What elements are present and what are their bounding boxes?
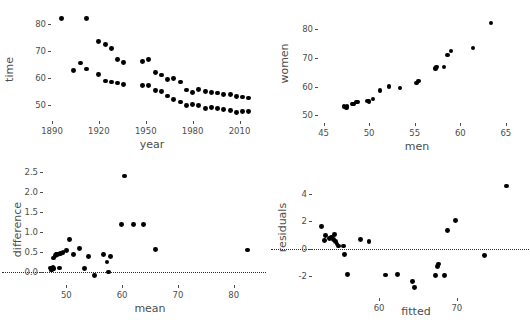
y-tick-label: 0 [279,245,307,254]
data-point [115,57,120,62]
data-point [122,174,127,179]
x-tick-mark [506,123,507,126]
x-tick-label: 50 [349,129,389,138]
data-point [190,102,195,107]
data-point [319,224,324,229]
figure-grid: time 5060708018901920195019802010 year w… [0,0,530,326]
data-point [383,273,388,278]
data-point [77,246,82,251]
data-point [59,16,64,21]
y-tick-label: 70 [285,54,313,63]
data-point [105,260,110,265]
x-tick-label: 1920 [79,127,119,136]
y-tick-mark [40,232,43,233]
plot-area-time-vs-year: 5060708018901920195019802010 [52,8,252,116]
plot-area-difference-vs-mean: 0.00.51.01.52.02.550607080 [44,168,256,280]
y-tick-mark [48,78,51,79]
y-tick-mark [40,272,43,273]
data-point [131,222,136,227]
data-point [453,218,458,223]
x-tick-mark [122,285,123,288]
y-tick-mark [40,192,43,193]
data-point [221,107,226,112]
data-point [246,109,251,114]
y-tick-mark [309,221,312,222]
data-point [96,39,101,44]
data-point [159,89,164,94]
data-point [159,73,164,78]
data-point [71,252,76,257]
data-point [184,88,189,93]
y-tick-mark [309,249,312,250]
data-point [240,109,245,114]
x-tick-label: 45 [304,129,344,138]
y-tick-mark [40,172,43,173]
x-tick-mark [457,298,458,301]
y-tick-label: 50 [18,101,46,110]
data-point [121,60,126,65]
data-point [109,46,114,51]
y-tick-label: 0.0 [10,268,38,277]
y-tick-label: 0.5 [10,248,38,257]
data-point [209,90,214,95]
data-point [52,266,57,271]
x-tick-label: 2010 [220,127,260,136]
y-tick-label: 60 [285,83,313,92]
data-point [221,92,226,97]
data-point [449,49,453,53]
y-tick-label: 80 [285,25,313,34]
x-tick-mark [234,285,235,288]
data-point [78,61,83,66]
data-point [246,96,251,101]
plot-area-residuals-vs-fitted: -20246070 [313,177,519,293]
data-point [141,222,146,227]
x-tick-mark [66,285,67,288]
data-point [442,273,447,278]
data-point [342,252,347,257]
data-point [203,89,208,94]
data-point [412,285,417,290]
x-tick-label: 1890 [32,127,72,136]
y-tick-label: 1.0 [10,228,38,237]
data-point [153,70,158,75]
data-point [209,105,214,110]
y-tick-label: 2 [279,217,307,226]
y-tick-label: 1.5 [10,208,38,217]
data-point [355,100,359,104]
data-point [82,266,87,271]
y-tick-label: 60 [18,74,46,83]
data-point [71,68,76,73]
data-point [410,279,415,284]
y-tick-label: 2.5 [10,168,38,177]
x-tick-label: 80 [214,291,254,300]
data-point [434,65,438,69]
data-point [240,95,245,100]
y-tick-label: 2.0 [10,188,38,197]
data-point [84,16,89,21]
data-point [57,266,62,271]
panel-time-vs-year: time 5060708018901920195019802010 year [0,0,265,163]
data-point [140,59,145,64]
data-point [416,79,420,83]
data-point [387,84,391,88]
x-tick-mark [178,285,179,288]
data-point [196,103,201,108]
data-point [67,237,72,242]
y-tick-mark [40,252,43,253]
y-tick-mark [315,87,318,88]
data-point [378,88,382,92]
y-tick-label: 70 [18,47,46,56]
data-point [153,247,158,252]
y-tick-label: 80 [18,20,46,29]
data-point [115,81,120,86]
y-tick-label: -2 [279,272,307,281]
data-point [121,82,126,87]
data-point [395,272,400,277]
y-tick-label: 4 [279,190,307,199]
y-tick-mark [315,29,318,30]
panel-residuals-vs-fitted: residuals -20246070 fitted [265,163,530,326]
y-tick-mark [48,24,51,25]
data-point [140,83,145,88]
data-point [103,42,108,47]
data-point [215,106,220,111]
